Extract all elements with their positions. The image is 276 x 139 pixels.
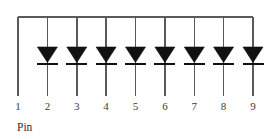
diode-3 [66,47,87,64]
diode-9 [243,47,264,64]
diode-triangle-2 [37,47,57,63]
diode-triangle-7 [184,47,204,63]
diode-5 [125,47,146,64]
schematic-canvas [0,0,276,139]
pin-diode-schematic: 123456789 Pin [0,0,276,139]
diode-7 [184,47,205,64]
diode-triangle-4 [96,47,116,63]
diode-triangle-8 [214,47,234,63]
diode-triangle-3 [67,47,87,63]
pin-label-4: 4 [96,100,116,112]
pin-axis-caption: Pin [17,121,32,134]
pin-label-1: 1 [8,100,28,112]
diode-8 [213,47,234,64]
pin-label-6: 6 [155,100,175,112]
pin-label-9: 9 [243,100,263,112]
pin-label-3: 3 [67,100,87,112]
diode-2 [37,47,58,64]
diode-triangle-5 [126,47,146,63]
pin-label-2: 2 [37,100,57,112]
diode-triangle-9 [243,47,263,63]
pin-label-7: 7 [184,100,204,112]
diode-6 [154,47,175,64]
diode-4 [96,47,117,64]
pin-label-8: 8 [214,100,234,112]
diode-triangle-6 [155,47,175,63]
diode-group [37,47,264,64]
pin-label-5: 5 [126,100,146,112]
